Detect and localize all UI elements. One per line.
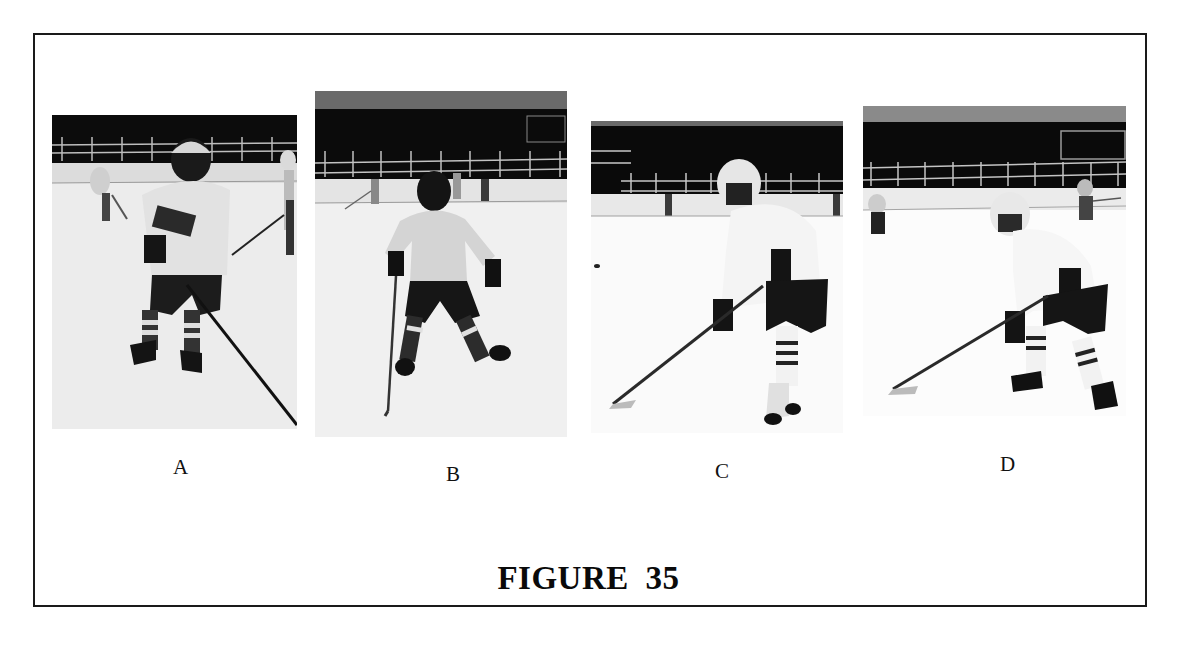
photo-panel-b bbox=[315, 91, 567, 437]
panel-label-a: A bbox=[173, 457, 188, 478]
hockey-player-image-d bbox=[863, 106, 1126, 416]
photo-panel-d bbox=[863, 106, 1126, 416]
hockey-player-image-c bbox=[591, 121, 843, 433]
panel-label-d: D bbox=[1000, 454, 1015, 475]
panel-label-b: B bbox=[446, 464, 460, 485]
panel-label-c: C bbox=[715, 461, 729, 482]
hockey-player-image-b bbox=[315, 91, 567, 437]
hockey-player-image-a bbox=[52, 115, 297, 429]
photo-panel-c bbox=[591, 121, 843, 433]
figure-title: FIGURE 35 bbox=[0, 562, 1177, 595]
photo-panel-a bbox=[52, 115, 297, 429]
